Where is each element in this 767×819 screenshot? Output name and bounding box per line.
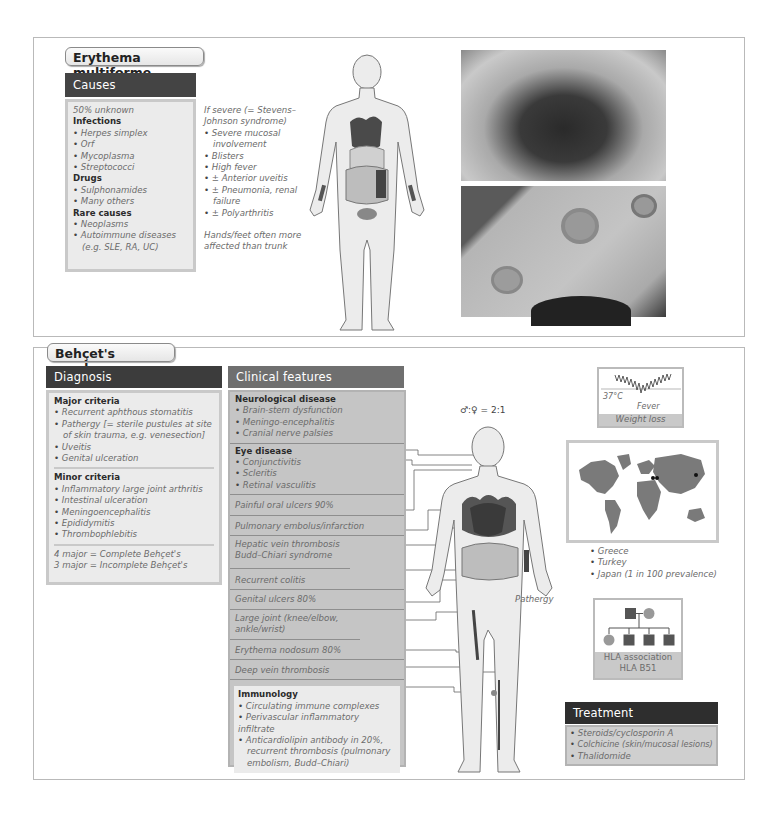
neuro-section: Neurological disease Brain-stem dysfunct…: [230, 392, 404, 444]
erythema-multiforme-title: Erythema multiforme: [65, 47, 204, 66]
behcets-syndrome-title: Behçet's syndrome: [47, 343, 175, 362]
human-body-figure-icon: [302, 50, 432, 335]
geography-item: Turkey: [590, 557, 740, 568]
pathergy-label: Pathergy: [515, 594, 554, 605]
minor-criterion: Meningoencephalitis: [54, 507, 214, 518]
clinical-row: Recurrent colitis: [230, 569, 404, 590]
geography-item: Greece: [590, 546, 740, 557]
erythema-multiforme-panel: Erythema multiforme Causes 50% unknown I…: [33, 37, 745, 337]
cause-item: Many others: [73, 196, 188, 207]
minor-criterion: Epididymitis: [54, 518, 214, 529]
severe-item: Severe mucosal involvement: [204, 128, 314, 151]
clinical-row: Genital ulcers 80%: [230, 590, 404, 609]
cause-item: Streptococci: [73, 162, 188, 173]
eye-section: Eye disease Conjunctivitis Scleritis Ret…: [230, 444, 404, 496]
eye-label: Eye disease: [235, 446, 399, 457]
clinical-features-header: Clinical features: [228, 366, 404, 388]
cause-item: Herpes simplex: [73, 128, 188, 139]
hla-box: HLA association HLA B51: [593, 598, 683, 680]
oral-mucosal-lesions-photo: [461, 50, 666, 181]
clinical-row: Large joint (knee/elbow, ankle/wrist): [230, 610, 360, 640]
major-criterion: Genital ulceration: [54, 453, 214, 464]
sex-ratio-label: ♂:♀ = 2:1: [460, 405, 505, 416]
immunology-item: Circulating immune complexes: [238, 701, 396, 712]
severe-item: ± Polyarthritis: [204, 208, 314, 219]
treatment-box: Steroids/cyclosporin A Colchicine (skin/…: [565, 725, 718, 766]
target-lesions-skin-photo: [461, 186, 666, 317]
weight-loss-label: Weight loss: [599, 414, 682, 426]
eye-item: Conjunctivitis: [235, 457, 399, 468]
diagnosis-header: Diagnosis: [46, 366, 222, 388]
minor-criterion: Inflammatory large joint arthritis: [54, 484, 214, 495]
cause-item: Autoimmune diseases (e.g. SLE, RA, UC): [73, 230, 188, 253]
treatment-item: Colchicine (skin/mucosal lesions): [570, 739, 713, 750]
severe-features-list: If severe (= Stevens– Johnson syndrome) …: [204, 105, 314, 253]
immunology-label: Immunology: [238, 689, 396, 700]
world-map-box: [566, 440, 719, 543]
severe-item: Blisters: [204, 151, 314, 162]
neuro-item: Meningo-encephalitis: [235, 417, 399, 428]
clinical-features-box: Neurological disease Brain-stem dysfunct…: [228, 390, 406, 767]
major-criterion: Uveitis: [54, 442, 214, 453]
clinical-row: Erythema nodosum 80%: [230, 640, 404, 660]
connector-lines: [406, 380, 576, 775]
cause-item: Orf: [73, 139, 188, 150]
major-criterion: Recurrent aphthous stomatitis: [54, 407, 214, 418]
hla-line2: HLA B51: [595, 663, 681, 674]
severe-note: affected than trunk: [204, 241, 314, 252]
cause-item: Mycoplasma: [73, 151, 188, 162]
diagnosis-box: Major criteria Recurrent aphthous stomat…: [46, 390, 222, 585]
clinical-row: Deep vein thrombosis: [230, 660, 404, 680]
treatment-header: Treatment: [565, 702, 718, 724]
fever-box: 37°C Fever Weight loss: [597, 367, 684, 428]
minor-criteria-label: Minor criteria: [54, 472, 214, 483]
severe-item: High fever: [204, 162, 314, 173]
immunology-section: Immunology Circulating immune complexes …: [234, 686, 400, 773]
diagnosis-summary: 3 major = Incomplete Behçet's: [54, 560, 214, 571]
neuro-item: Brain-stem dysfunction: [235, 405, 399, 416]
hla-line1: HLA association: [595, 652, 681, 663]
cause-item: Neoplasms: [73, 219, 188, 230]
clinical-row: Painful oral ulcers 90%: [230, 495, 404, 515]
clinical-row: Hepatic vein thrombosis Budd–Chiari synd…: [230, 536, 350, 569]
severe-note: Hands/feet often more: [204, 230, 314, 241]
severe-intro: If severe (= Stevens–: [204, 105, 314, 116]
cause-item: Sulphonamides: [73, 185, 188, 196]
pedigree-icon: [597, 604, 681, 650]
eye-item: Retinal vasculitis: [235, 480, 399, 491]
causes-group-label: Rare causes: [73, 208, 188, 219]
causes-group-label: Drugs: [73, 173, 188, 184]
geography-list: Greece Turkey Japan (1 in 100 prevalence…: [590, 546, 740, 580]
major-criteria-label: Major criteria: [54, 396, 214, 407]
fever-temp: 37°C: [603, 391, 623, 402]
minor-criterion: Intestinal ulceration: [54, 495, 214, 506]
causes-group-label: Infections: [73, 116, 188, 127]
minor-criterion: Thrombophlebitis: [54, 529, 214, 540]
causes-box: 50% unknown Infections Herpes simplex Or…: [65, 99, 196, 272]
major-criterion: Pathergy [= sterile pustules at site of …: [54, 419, 214, 442]
diagnosis-summary: 4 major = Complete Behçet's: [54, 549, 214, 560]
neuro-label: Neurological disease: [235, 394, 399, 405]
eye-item: Scleritis: [235, 468, 399, 479]
treatment-item: Steroids/cyclosporin A: [570, 728, 713, 739]
world-map-icon: [571, 448, 716, 538]
severe-item: ± Anterior uveitis: [204, 173, 314, 184]
geography-item: Japan (1 in 100 prevalence): [590, 569, 740, 580]
fever-label: Fever: [637, 401, 659, 412]
immunology-item: Anticardiolipin antibody in 20%, recurre…: [238, 735, 396, 769]
clinical-row: Pulmonary embolus/infarction: [230, 516, 404, 536]
treatment-item: Thalidomide: [570, 751, 713, 762]
severe-intro: Johnson syndrome): [204, 116, 314, 127]
causes-intro: 50% unknown: [73, 105, 188, 116]
causes-header: Causes: [65, 73, 196, 97]
immunology-item: Perivascular inflammatory infiltrate: [238, 712, 396, 735]
hla-caption: HLA association HLA B51: [595, 652, 681, 678]
neuro-item: Cranial nerve palsies: [235, 428, 399, 439]
severe-item: ± Pneumonia, renal failure: [204, 185, 314, 208]
